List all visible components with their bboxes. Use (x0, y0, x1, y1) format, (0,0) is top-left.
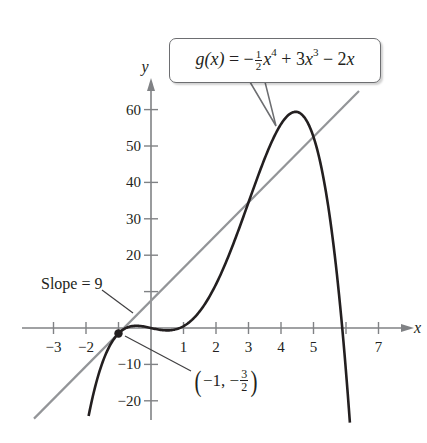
frac-den: 2 (241, 381, 247, 393)
paren-open: ( (195, 366, 202, 396)
y-tick-label: 40 (126, 174, 141, 190)
y-tick-label: −20 (118, 393, 141, 409)
function-callout: g(x) = −12x4 + 3x3 − 2x (169, 38, 381, 83)
y-axis-arrow-icon (147, 78, 155, 91)
y-tick-label: 30 (126, 211, 141, 227)
callout-exp: 3 (313, 46, 319, 58)
tangent-point-marker (114, 329, 122, 337)
x-tick-label: 3 (245, 339, 253, 355)
point-coords: −1, − (203, 371, 239, 391)
slope-annotation: Slope = 9 (41, 275, 102, 293)
callout-tail (250, 82, 276, 126)
x-tick-label: 2 (212, 339, 220, 355)
x-tick-label: 7 (375, 339, 383, 355)
callout-var: x (347, 49, 355, 69)
ticks (54, 110, 379, 401)
frac-num: 1 (255, 49, 263, 61)
point-fraction: 32 (240, 368, 248, 393)
x-tick-label: 1 (180, 339, 188, 355)
slope-leader-line (102, 290, 133, 313)
callout-fn: g(x) (195, 49, 224, 69)
x-tick-label: 5 (310, 339, 318, 355)
x-axis-arrow-icon (401, 324, 414, 332)
x-tick-label: −2 (78, 339, 94, 355)
y-tick-label: −10 (118, 356, 141, 372)
paren-close: ) (251, 366, 258, 396)
y-tick-label: 60 (126, 102, 141, 118)
tick-labels: −3−2123457−20−102030405060 (46, 102, 383, 409)
x-tick-label: 4 (277, 339, 285, 355)
callout-fraction: 12 (255, 49, 263, 72)
frac-den: 2 (256, 61, 262, 72)
callout-var: x (305, 49, 313, 69)
callout-term: − 2 (318, 49, 346, 69)
frac-num: 3 (240, 368, 248, 381)
x-tick-label: −3 (46, 339, 62, 355)
y-tick-label: 50 (126, 138, 141, 154)
x-axis-label: x (413, 319, 421, 336)
y-axis-label: y (139, 58, 149, 76)
callout-eq: = − (224, 49, 253, 69)
tangent-point-label: ( −1, − 32 ) (193, 366, 259, 396)
y-tick-label: 20 (126, 247, 141, 263)
callout-exp: 4 (271, 46, 277, 58)
callout-term: + 3 (277, 49, 305, 69)
